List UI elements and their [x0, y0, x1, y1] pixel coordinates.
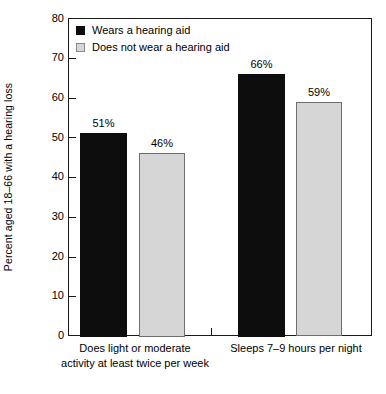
x-axis-category-label-sleep: Sleeps 7–9 hours per night [212, 341, 380, 356]
y-tick-mark-20 [68, 257, 76, 258]
bar-activity-wears [80, 133, 127, 336]
legend-label-does-not-wear-hearing-aid: Does not wear a hearing aid [92, 41, 230, 53]
y-tick-label-50: 50 [24, 132, 64, 143]
legend-swatch-dark-icon [76, 26, 85, 35]
y-tick-label-70: 70 [24, 52, 64, 63]
bar-value-activity-does-not-wear: 46% [139, 137, 185, 149]
x-axis-group-separator-tick [211, 328, 212, 336]
legend-swatch-light-icon [76, 43, 85, 52]
bar-chart: Percent aged 18–66 with a hearing loss 8… [0, 0, 386, 394]
bar-sleep-does-not-wear [296, 102, 342, 337]
legend-label-wears-hearing-aid: Wears a hearing aid [92, 24, 190, 36]
legend-item-does-not-wear-hearing-aid: Does not wear a hearing aid [76, 39, 230, 55]
y-tick-label-60: 60 [24, 92, 64, 103]
y-axis-title: Percent aged 18–66 with a hearing loss [0, 18, 16, 336]
y-tick-label-10: 10 [24, 290, 64, 301]
bar-value-sleep-wears: 66% [238, 58, 285, 70]
y-tick-label-20: 20 [24, 251, 64, 262]
y-tick-mark-10 [68, 296, 76, 297]
y-tick-mark-30 [68, 217, 76, 218]
y-tick-mark-70 [68, 58, 76, 59]
x-axis-category-label-activity-line2: activity at least twice per week [42, 356, 228, 371]
x-axis-category-label-activity-line1: Does light or moderate [42, 341, 228, 356]
x-axis-category-label-sleep-line1: Sleeps 7–9 hours per night [212, 341, 380, 356]
legend: Wears a hearing aid Does not wear a hear… [76, 22, 230, 56]
x-axis-category-label-activity: Does light or moderate activity at least… [42, 341, 228, 370]
legend-item-wears-hearing-aid: Wears a hearing aid [76, 22, 230, 38]
bar-sleep-wears [238, 74, 285, 337]
bar-value-activity-wears: 51% [80, 117, 127, 129]
y-tick-mark-40 [68, 177, 76, 178]
y-tick-label-30: 30 [24, 211, 64, 222]
y-tick-mark-60 [68, 98, 76, 99]
bar-value-sleep-does-not-wear: 59% [296, 86, 342, 98]
bar-activity-does-not-wear [139, 153, 185, 337]
y-tick-label-80: 80 [24, 13, 64, 24]
y-tick-mark-50 [68, 137, 76, 138]
y-tick-label-40: 40 [24, 171, 64, 182]
y-tick-label-0: 0 [24, 330, 64, 341]
